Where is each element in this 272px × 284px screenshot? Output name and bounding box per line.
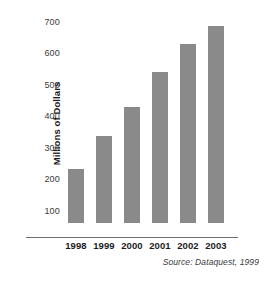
- x-tick-label-2003: 2003: [199, 240, 233, 251]
- bar-chart-figure: Millions of Dollars 700 600 500 400 300 …: [0, 0, 272, 284]
- x-axis-tick-labels: 1998 1999 2000 2001 2002 2003: [0, 0, 272, 284]
- source-note: Source: Dataquest, 1999: [163, 257, 259, 267]
